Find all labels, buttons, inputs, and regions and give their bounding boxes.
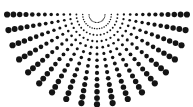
- dot: [107, 82, 112, 87]
- dot: [76, 17, 78, 19]
- dot: [111, 56, 114, 59]
- dot: [78, 100, 84, 106]
- dot: [57, 57, 61, 61]
- dot: [84, 44, 87, 47]
- dot: [58, 26, 61, 29]
- dot: [94, 95, 100, 101]
- dot: [86, 31, 88, 33]
- dot: [63, 96, 69, 102]
- dot: [62, 13, 65, 16]
- dot: [73, 73, 78, 78]
- dot: [130, 33, 133, 36]
- dot: [121, 23, 123, 25]
- dot: [138, 28, 141, 31]
- dot: [78, 24, 80, 26]
- dot: [94, 28, 96, 30]
- dot: [72, 52, 75, 55]
- dot: [109, 21, 111, 23]
- dot: [50, 50, 54, 54]
- dot: [102, 52, 105, 55]
- dot: [173, 40, 179, 46]
- dot: [95, 65, 99, 69]
- dot: [57, 20, 60, 23]
- dot: [91, 27, 93, 29]
- dot: [25, 24, 30, 29]
- dot: [161, 50, 166, 55]
- dot: [116, 17, 118, 19]
- dot: [83, 19, 85, 21]
- dot: [167, 38, 172, 43]
- dot: [17, 12, 22, 17]
- dot: [105, 70, 109, 74]
- dot: [68, 84, 73, 89]
- dot: [66, 90, 72, 96]
- dot: [127, 25, 130, 28]
- dot: [63, 19, 66, 22]
- dot: [74, 39, 77, 42]
- dot: [121, 43, 124, 46]
- dot: [104, 64, 108, 68]
- dot: [172, 56, 178, 62]
- dot: [117, 14, 119, 16]
- dot: [134, 20, 137, 23]
- dot: [130, 42, 133, 45]
- dot: [130, 73, 135, 78]
- dot: [5, 27, 11, 33]
- dot: [33, 47, 38, 52]
- dot: [152, 80, 158, 86]
- dot: [146, 22, 150, 26]
- dot: [60, 42, 63, 45]
- dot: [94, 21, 95, 22]
- dot: [108, 88, 113, 93]
- dot: [136, 84, 142, 90]
- dot: [110, 100, 116, 106]
- dot: [22, 38, 27, 43]
- dot: [73, 27, 75, 29]
- dot: [145, 42, 149, 46]
- dot: [110, 16, 112, 18]
- dot: [67, 30, 70, 33]
- dot: [49, 13, 52, 16]
- dot: [85, 70, 89, 74]
- dot: [89, 15, 90, 16]
- dot: [136, 62, 141, 67]
- dot: [113, 34, 115, 36]
- dot: [65, 38, 68, 41]
- dot: [12, 26, 18, 32]
- dot: [104, 14, 105, 15]
- dot: [95, 71, 99, 75]
- dot: [98, 22, 99, 23]
- dot: [118, 52, 121, 55]
- dot: [94, 83, 99, 88]
- dot: [126, 38, 129, 41]
- dot: [156, 47, 161, 52]
- dot: [46, 30, 50, 34]
- dot: [101, 40, 103, 42]
- dot: [56, 13, 59, 16]
- dot: [133, 79, 138, 84]
- dot: [79, 42, 82, 45]
- dot: [18, 25, 23, 30]
- dot: [9, 42, 15, 48]
- dot: [144, 30, 148, 34]
- dot: [111, 14, 113, 16]
- dot: [88, 14, 89, 15]
- dot: [85, 23, 87, 25]
- dot: [123, 13, 125, 15]
- dot: [66, 63, 70, 67]
- dot: [53, 62, 58, 67]
- dot: [161, 36, 166, 41]
- dot: [80, 56, 83, 59]
- dot: [86, 64, 90, 68]
- dot: [105, 39, 107, 41]
- dot: [132, 57, 136, 61]
- dot: [77, 21, 79, 23]
- dot: [30, 65, 36, 71]
- dot: [155, 34, 160, 39]
- dot: [102, 20, 103, 21]
- dot: [82, 14, 84, 16]
- dot: [37, 23, 41, 27]
- dot: [104, 17, 105, 18]
- dot: [109, 29, 111, 31]
- dot: [62, 68, 67, 73]
